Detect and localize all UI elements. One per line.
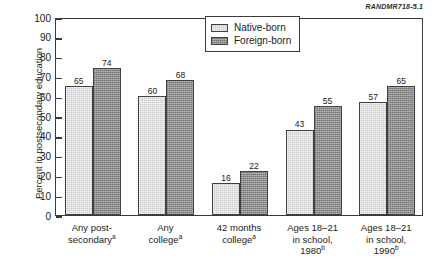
y-tick-label: 70	[40, 72, 51, 84]
footnote-marker: b	[395, 244, 399, 251]
bar-native-born[interactable]: 43	[286, 130, 314, 215]
bar-value-label: 60	[139, 86, 165, 96]
bar-value-label: 68	[167, 70, 193, 80]
chart-legend: Native-born Foreign-born	[205, 16, 300, 52]
legend-swatch-foreign-born-icon	[211, 37, 228, 45]
y-tick-label: 10	[40, 191, 51, 203]
y-tick-label: 60	[40, 92, 51, 104]
bar-foreign-born[interactable]: 68	[166, 80, 194, 215]
bar-value-label: 55	[315, 96, 341, 106]
y-tick-label: 80	[40, 52, 51, 64]
footnote-marker: a	[252, 232, 256, 239]
legend-item-foreign-born: Foreign-born	[211, 34, 291, 47]
y-tick-label: 40	[40, 131, 51, 143]
footnote-marker: b	[321, 244, 325, 251]
x-axis-label-line: Ages 18–21	[343, 222, 429, 234]
bar-value-label: 22	[241, 161, 267, 171]
figure-identifier: RANDMR718-5.1	[366, 3, 423, 10]
y-tick-label: 50	[40, 112, 51, 124]
bar-foreign-born[interactable]: 74	[93, 68, 121, 215]
bar-value-label: 74	[94, 58, 120, 68]
legend-swatch-native-born-icon	[211, 24, 228, 32]
bar-group: 5765	[359, 19, 415, 215]
legend-item-native-born: Native-born	[211, 21, 291, 34]
bar-foreign-born[interactable]: 65	[387, 86, 415, 215]
bar-native-born[interactable]: 57	[359, 102, 387, 215]
bar-foreign-born[interactable]: 55	[314, 106, 342, 215]
x-axis-label-line: in school,	[343, 234, 429, 246]
x-axis-label: Ages 18–21in school,1990b	[343, 222, 429, 257]
y-tick-label: 90	[40, 32, 51, 44]
bar-value-label: 43	[287, 119, 313, 129]
x-axis-label-line: 1990b	[343, 245, 429, 257]
y-tick-mark	[56, 216, 62, 217]
bar-group: 6068	[138, 19, 194, 215]
footnote-marker: a	[112, 232, 116, 239]
bar-native-born[interactable]: 16	[212, 183, 240, 215]
legend-label-foreign-born: Foreign-born	[234, 35, 291, 46]
bar-value-label: 16	[213, 173, 239, 183]
legend-label-native-born: Native-born	[234, 22, 286, 33]
bar-native-born[interactable]: 60	[138, 96, 166, 215]
footnote-marker: a	[179, 232, 183, 239]
bar-value-label: 65	[388, 76, 414, 86]
y-tick-label: 20	[40, 171, 51, 183]
x-axis-labels: Any post-secondaryaAnycollegea42 monthsc…	[0, 222, 440, 272]
y-tick-label: 100	[34, 13, 51, 25]
bar-native-born[interactable]: 65	[65, 86, 93, 215]
bar-value-label: 65	[66, 76, 92, 86]
y-tick-label: 0	[45, 211, 51, 223]
bar-foreign-born[interactable]: 22	[240, 171, 268, 215]
y-tick-label: 30	[40, 151, 51, 163]
bar-value-label: 57	[360, 92, 386, 102]
bar-group: 6574	[65, 19, 121, 215]
